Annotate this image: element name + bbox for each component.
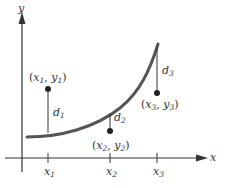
data-points: (x1, y1) (x2, y2) (x3, y3) — [29, 71, 179, 153]
point-label-2: (x2, y2) — [92, 139, 130, 153]
y-axis-label: y — [17, 2, 25, 15]
point-label-3: (x3, y3) — [141, 98, 179, 112]
data-point-3 — [154, 90, 160, 96]
y-axis: y — [17, 2, 26, 172]
tick-label-x1: x1 — [44, 165, 55, 179]
distance-label-d2: d2 — [114, 111, 126, 125]
data-point-2 — [107, 128, 113, 134]
x-axis-arrow-icon — [196, 155, 208, 162]
x-axis-label: x — [210, 151, 217, 164]
tick-label-x2: x2 — [106, 165, 117, 179]
least-squares-diagram: y x x1 x2 x3 d1 d2 d3 (x1, y1) (x2, y2) … — [0, 0, 226, 188]
x-axis: x — [5, 151, 217, 164]
distance-label-d3: d3 — [162, 64, 174, 78]
point-label-1: (x1, y1) — [29, 71, 67, 85]
tick-label-x3: x3 — [153, 165, 164, 179]
data-point-1 — [45, 86, 51, 92]
distance-label-d1: d1 — [53, 106, 65, 120]
residual-segments: d1 d2 d3 — [48, 46, 174, 133]
x-ticks: x1 x2 x3 — [44, 153, 164, 179]
